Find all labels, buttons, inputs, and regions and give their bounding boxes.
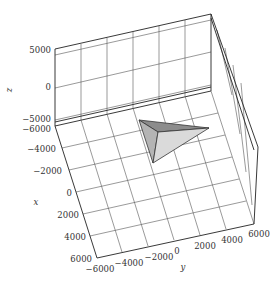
- y-tick-4000: 4000: [221, 235, 243, 245]
- pyramid: [139, 120, 209, 163]
- y-tick-neg6000: −6000: [86, 264, 115, 274]
- x-tick-neg4000: −4000: [27, 144, 56, 154]
- x-tick-neg2000: −2000: [33, 166, 62, 176]
- y-tick-0: 0: [174, 246, 179, 256]
- right-wall: [211, 30, 254, 224]
- floor-grid: [62, 96, 246, 252]
- pyramid-face-front: [153, 128, 209, 163]
- 3d-plot: 5000 0 −5000 −6000 z −4000 −2000 0 2000 …: [0, 0, 274, 286]
- y-tick-6000: 6000: [248, 229, 270, 239]
- y-axis-label: y: [180, 262, 186, 272]
- z-tick-0: 0: [46, 82, 51, 92]
- x-axis-label: x: [34, 197, 39, 207]
- x-tick-4000: 4000: [64, 232, 86, 242]
- y-tick-2000: 2000: [194, 241, 216, 251]
- z-tick-neg6000: −6000: [22, 124, 51, 134]
- x-tick-6000: 6000: [70, 254, 92, 264]
- z-tick-neg5000: −5000: [22, 114, 51, 124]
- z-axis-label: z: [4, 87, 14, 93]
- z-tick-5000: 5000: [29, 45, 51, 55]
- x-tick-0: 0: [67, 188, 72, 198]
- x-tick-2000: 2000: [57, 210, 79, 220]
- y-tick-neg4000: −4000: [115, 258, 144, 268]
- y-tick-neg2000: −2000: [145, 252, 174, 262]
